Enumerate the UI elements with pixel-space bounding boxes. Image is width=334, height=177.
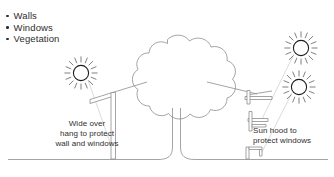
sun-right-upper [284, 31, 317, 64]
tree-canopy [132, 35, 235, 119]
annotation-sun-hood: Sun hood to protect windows [253, 126, 334, 146]
sun-left [64, 56, 97, 89]
legend-item-windows: Windows [6, 22, 60, 34]
legend-item-label: Walls [14, 10, 37, 21]
bullet-icon [6, 26, 9, 29]
bullet-icon [6, 15, 9, 18]
legend-item-label: Windows [14, 22, 53, 33]
sun-right-lower [282, 70, 315, 103]
bullet-icon [6, 38, 9, 41]
legend-item-label: Vegetation [14, 33, 60, 44]
annotation-wide-overhang: Wide over hang to protect wall and windo… [33, 119, 141, 150]
legend-list: Walls Windows Vegetation [6, 10, 60, 45]
legend-item-vegetation: Vegetation [6, 33, 60, 45]
legend-item-walls: Walls [6, 10, 60, 22]
